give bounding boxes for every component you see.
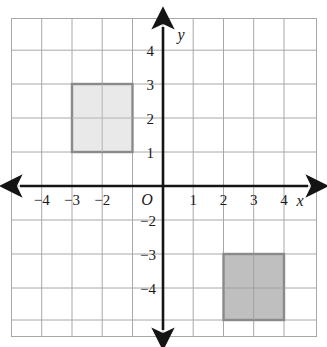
- x-tick-label: 3: [250, 192, 258, 208]
- upper-left-square: [72, 84, 133, 152]
- x-tick-label: −4: [34, 192, 50, 208]
- y-tick-label: −4: [140, 281, 156, 297]
- x-tick-label: 4: [280, 192, 288, 208]
- y-axis-name-label: y: [175, 26, 185, 44]
- x-tick-label: −3: [64, 192, 80, 208]
- lower-right-square: [224, 254, 285, 320]
- x-axis-name-label: x: [295, 192, 303, 209]
- coordinate-plane-figure: −4 −3 −2 1 2 3 4 4 3 2 1 −2 −3 −4 O x y: [0, 0, 327, 347]
- coordinate-plane-svg: −4 −3 −2 1 2 3 4 4 3 2 1 −2 −3 −4 O x y: [0, 0, 327, 347]
- x-tick-label: 1: [189, 192, 197, 208]
- origin-label: O: [141, 191, 153, 208]
- y-tick-label: 3: [147, 77, 155, 93]
- x-tick-label: −2: [94, 192, 110, 208]
- y-tick-label: 1: [147, 145, 155, 161]
- x-tick-label: 2: [220, 192, 228, 208]
- y-tick-label: −3: [140, 247, 156, 263]
- y-tick-label: 2: [147, 111, 155, 127]
- y-tick-label: −2: [140, 213, 156, 229]
- y-tick-label: 4: [147, 43, 155, 59]
